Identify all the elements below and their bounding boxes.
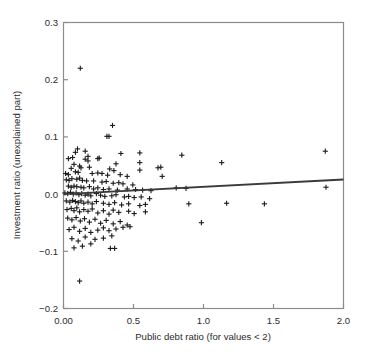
- x-axis-title: Public debt ratio (for values < 2): [135, 331, 271, 342]
- scatter-marker: [87, 220, 92, 225]
- scatter-marker: [109, 233, 114, 238]
- scatter-marker: [323, 149, 328, 154]
- scatter-marker: [323, 185, 328, 190]
- y-axis-tick-labels: −0.2−0.10.00.10.20.3: [39, 17, 58, 314]
- scatter-marker: [186, 201, 191, 206]
- scatter-marker: [92, 217, 97, 222]
- scatter-marker: [101, 225, 106, 230]
- scatter-marker: [158, 165, 163, 170]
- scatter-marker: [99, 171, 104, 176]
- scatter-marker: [160, 174, 165, 179]
- scatter-marker: [77, 278, 82, 283]
- y-tick-label: −0.1: [39, 246, 58, 257]
- scatter-marker: [81, 185, 86, 190]
- scatter-marker: [106, 228, 111, 233]
- scatter-marker: [99, 179, 104, 184]
- scatter-marker: [106, 202, 111, 207]
- scatter-marker: [101, 201, 106, 206]
- plot-canvas: −0.2−0.10.00.10.20.3 0.000.51.01.52.0 Pu…: [0, 0, 366, 356]
- scatter-marker: [106, 212, 111, 217]
- scatter-marker: [137, 150, 142, 155]
- scatter-marker: [95, 185, 100, 190]
- y-tick-label: 0.2: [45, 74, 58, 85]
- scatter-marker: [92, 237, 97, 242]
- scatter-marker: [83, 149, 88, 154]
- scatter-marker: [113, 226, 118, 231]
- x-tick-label: 0.5: [127, 315, 140, 326]
- scatter-marker: [111, 221, 116, 226]
- scatter-marker: [78, 185, 83, 190]
- y-tick-label: 0.0: [45, 189, 58, 200]
- y-tick-label: 0.1: [45, 131, 58, 142]
- scatter-marker: [119, 202, 124, 207]
- scatter-marker: [78, 66, 83, 71]
- scatter-marker: [69, 166, 74, 171]
- scatter-marker: [95, 170, 100, 175]
- axis-tick-marks: [64, 23, 344, 309]
- scatter-marker: [137, 160, 142, 165]
- scatter-marker: [76, 170, 81, 175]
- scatter-marker: [126, 209, 131, 214]
- scatter-marker: [137, 203, 142, 208]
- scatter-marker: [73, 169, 78, 174]
- scatter-marker: [139, 194, 144, 199]
- scatter-marker: [110, 123, 115, 128]
- scatter-marker: [262, 201, 267, 206]
- scatter-marker: [77, 229, 82, 234]
- scatter-marker: [74, 177, 79, 182]
- scatter-marker: [90, 171, 95, 176]
- scatter-marker: [73, 199, 78, 204]
- scatter-marker: [111, 181, 116, 186]
- scatter-marker: [91, 178, 96, 183]
- scatter-marker: [111, 208, 116, 213]
- scatter-marker: [95, 228, 100, 233]
- scatter-marker: [67, 227, 72, 232]
- scatter-marker: [87, 165, 92, 170]
- scatter-marker: [126, 201, 131, 206]
- scatter-marker: [199, 220, 204, 225]
- scatter-marker: [71, 245, 76, 250]
- y-tick-label: 0.3: [45, 17, 58, 28]
- y-axis-title: Investment ratio (unexplained part): [11, 91, 22, 239]
- scatter-marker: [132, 211, 137, 216]
- scatter-marker: [69, 236, 74, 241]
- scatter-marker: [112, 246, 117, 251]
- scatter-marker: [80, 244, 85, 249]
- scatter-marker: [95, 210, 100, 215]
- scatter-marker: [76, 238, 81, 243]
- scatter-marker: [102, 194, 107, 199]
- scatter-marker: [116, 180, 121, 185]
- scatter-marker: [98, 221, 103, 226]
- scatter-marker: [70, 155, 75, 160]
- scatter-marker: [66, 172, 71, 177]
- scatter-marker: [105, 173, 110, 178]
- scatter-marker: [125, 174, 130, 179]
- x-tick-label: 1.5: [267, 315, 280, 326]
- y-tick-label: −0.2: [39, 303, 58, 314]
- scatter-marker: [155, 165, 160, 170]
- scatter-marker: [219, 160, 224, 165]
- scatter-marker: [122, 194, 127, 199]
- scatter-marker: [101, 208, 106, 213]
- scatter-plot-figure: −0.2−0.10.00.10.20.3 0.000.51.01.52.0 Pu…: [0, 0, 366, 356]
- plot-frame: [64, 23, 344, 309]
- x-tick-label: 2.0: [337, 315, 350, 326]
- scatter-marker: [101, 236, 106, 241]
- scatter-marker: [137, 167, 142, 172]
- scatter-marker: [104, 179, 109, 184]
- scatter-marker: [179, 153, 184, 158]
- scatter-marker: [71, 162, 76, 167]
- x-axis-tick-labels: 0.000.51.01.52.0: [54, 315, 350, 326]
- scatter-marker: [118, 172, 123, 177]
- scatter-marker: [143, 209, 148, 214]
- scatter-marker: [71, 183, 76, 188]
- scatter-marker: [85, 154, 90, 159]
- scatter-marker: [118, 219, 123, 224]
- scatter-marker: [64, 177, 69, 182]
- x-tick-label: 1.0: [197, 315, 210, 326]
- scatter-marker: [109, 193, 114, 198]
- scatter-marker: [83, 226, 88, 231]
- scatter-marker: [64, 198, 69, 203]
- scatter-marker: [69, 185, 74, 190]
- scatter-marker: [132, 195, 137, 200]
